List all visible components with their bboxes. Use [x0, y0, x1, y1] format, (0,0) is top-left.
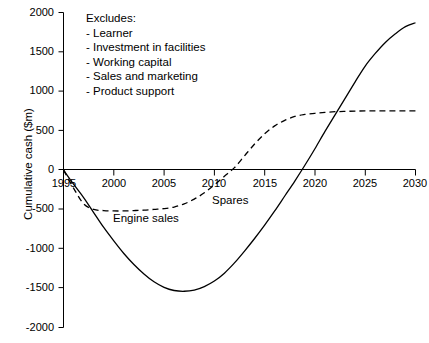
- excludes-item-investment: - Investment in facilities: [86, 40, 206, 55]
- y-tick-label-2000: 2000: [12, 7, 54, 18]
- excludes-item-working-capital: - Working capital: [86, 55, 206, 70]
- y-tick-label-1500: 1500: [12, 46, 54, 57]
- series-label-spares: Spares: [212, 194, 248, 206]
- excludes-item-learner: - Learner: [86, 26, 206, 41]
- chart-plot-area: [0, 0, 429, 343]
- x-tick-label-2005: 2005: [141, 178, 187, 189]
- x-tick-label-2025: 2025: [342, 178, 388, 189]
- x-axis-ticks: [64, 170, 416, 176]
- x-tick-label-2020: 2020: [292, 178, 338, 189]
- y-tick-label-neg1500: -1500: [12, 282, 54, 293]
- x-tick-label-1995: 1995: [41, 178, 87, 189]
- excludes-annotation: Excludes: - Learner - Investment in faci…: [86, 11, 206, 99]
- excludes-heading: Excludes:: [86, 11, 206, 26]
- x-tick-label-2010: 2010: [191, 178, 237, 189]
- y-tick-label-neg2000: -2000: [12, 322, 54, 333]
- x-tick-label-2030: 2030: [392, 178, 429, 189]
- series-label-engine-sales: Engine sales: [113, 212, 179, 224]
- y-axis-ticks: [59, 13, 64, 328]
- x-tick-label-2015: 2015: [242, 178, 288, 189]
- cumulative-cash-chart: 2000 1500 1000 500 0 -500 -1000 -1500 -2…: [0, 0, 429, 343]
- y-axis-title: Cumulative cash ($m): [22, 74, 34, 254]
- excludes-item-sales-marketing: - Sales and marketing: [86, 69, 206, 84]
- x-tick-label-2000: 2000: [91, 178, 137, 189]
- excludes-item-product-support: - Product support: [86, 84, 206, 99]
